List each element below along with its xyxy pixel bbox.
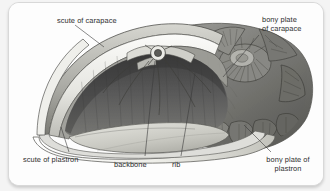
- label-scute-of-carapace: scute of carapace: [57, 16, 117, 25]
- figure-card: scute of carapace bony plate of carapace…: [8, 2, 324, 186]
- label-backbone: backbone: [114, 160, 147, 169]
- label-scute-of-plastron: scute of plastron: [23, 155, 79, 164]
- screenshot-root: scute of carapace bony plate of carapace…: [0, 0, 330, 191]
- label-rib: rib: [172, 160, 180, 169]
- label-bony-plate-of-plastron: bony plate of plastron: [249, 155, 324, 173]
- label-bony-plate-of-carapace: bony plate of carapace: [262, 15, 301, 33]
